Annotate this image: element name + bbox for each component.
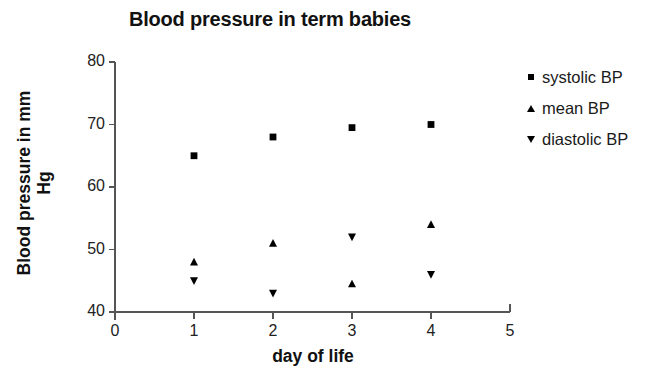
data-point-mean-bp-day-1 (190, 258, 198, 266)
y-tick-label-80: 80 (71, 52, 105, 70)
data-point-diastolic-bp-day-1 (190, 277, 198, 285)
triangle-up-marker-icon (527, 105, 535, 112)
legend-label: diastolic BP (542, 130, 628, 149)
data-point-mean-bp-day-2 (269, 239, 277, 247)
data-point-mean-bp-day-3 (348, 280, 356, 288)
data-point-systolic-bp-day-1 (191, 152, 198, 159)
legend-marker-wrap (520, 74, 542, 80)
x-tick-label-0: 0 (103, 322, 127, 340)
legend-marker-wrap (520, 105, 542, 112)
axes (109, 62, 510, 320)
chart-figure: Blood pressure in term babies Blood pres… (0, 0, 664, 370)
legend-label: systolic BP (542, 68, 623, 87)
y-tick-label-70: 70 (71, 115, 105, 133)
x-tick-label-1: 1 (182, 322, 206, 340)
data-point-diastolic-bp-day-4 (427, 271, 435, 279)
data-point-systolic-bp-day-3 (349, 124, 356, 131)
legend-item-systolic-bp[interactable]: systolic BP (520, 64, 664, 90)
x-tick-label-2: 2 (261, 322, 285, 340)
legend-item-mean-bp[interactable]: mean BP (520, 95, 664, 121)
square-marker-icon (528, 74, 534, 80)
legend-label: mean BP (542, 99, 610, 118)
triangle-down-marker-icon (527, 136, 535, 143)
chart-legend: systolic BPmean BPdiastolic BP (520, 64, 664, 157)
y-tick-label-40: 40 (71, 302, 105, 320)
y-tick-label-50: 50 (71, 240, 105, 258)
legend-item-diastolic-bp[interactable]: diastolic BP (520, 126, 664, 152)
data-point-systolic-bp-day-4 (428, 121, 435, 128)
x-tick-label-3: 3 (340, 322, 364, 340)
y-tick-label-60: 60 (71, 177, 105, 195)
data-point-mean-bp-day-4 (427, 220, 435, 228)
data-point-systolic-bp-day-2 (270, 134, 277, 141)
data-point-diastolic-bp-day-3 (348, 234, 356, 242)
legend-marker-wrap (520, 136, 542, 143)
data-point-diastolic-bp-day-2 (269, 290, 277, 298)
x-tick-label-5: 5 (498, 322, 522, 340)
data-markers (190, 121, 435, 297)
x-tick-label-4: 4 (419, 322, 443, 340)
